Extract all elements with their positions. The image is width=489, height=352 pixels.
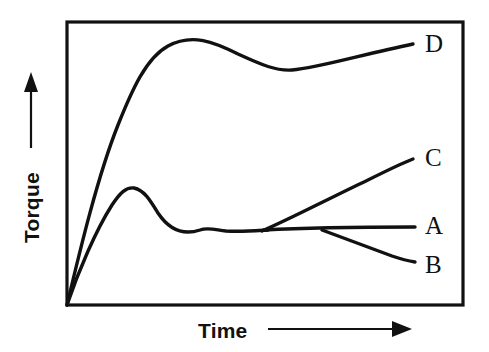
- series-label-a: A: [425, 212, 443, 239]
- series-label-c: C: [425, 144, 442, 171]
- torque-time-figure: Torque Time D C A B: [0, 0, 489, 352]
- curve-lower-trunk: [67, 188, 268, 305]
- figure-canvas: Torque Time D C A B: [0, 0, 489, 352]
- x-axis-arrow: [268, 321, 412, 337]
- y-axis-arrow: [24, 72, 38, 148]
- y-axis-label: Torque: [20, 172, 43, 243]
- curve-d: [67, 40, 413, 305]
- series-label-d: D: [425, 30, 443, 57]
- curve-b: [322, 230, 415, 262]
- x-axis-label: Time: [198, 319, 247, 342]
- series-label-b: B: [425, 251, 442, 278]
- curve-c: [262, 159, 413, 231]
- curve-a: [264, 227, 415, 230]
